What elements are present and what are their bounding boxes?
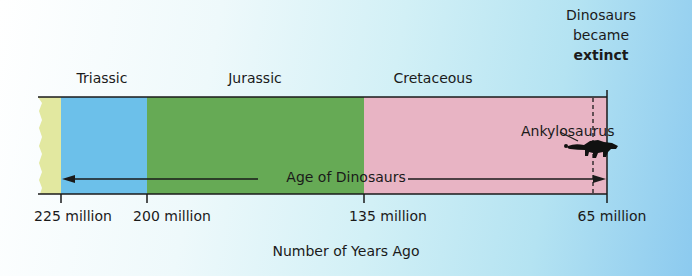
age-of-dinosaurs-label: Age of Dinosaurs	[286, 169, 405, 185]
period-label-jurassic: Jurassic	[228, 70, 282, 86]
tick-label-200: 200 million	[133, 208, 211, 224]
x-axis-title: Number of Years Ago	[272, 243, 419, 259]
tick-label-135: 135 million	[349, 208, 427, 224]
extinction-annotation: Dinosaurs became extinct	[553, 5, 649, 65]
ankylosaurus-label: Ankylosaurus	[521, 123, 614, 139]
extinction-line-3: extinct	[553, 45, 649, 65]
extinction-line-2: became	[553, 25, 649, 45]
pre-triassic-band	[38, 97, 61, 194]
period-label-triassic: Triassic	[77, 70, 128, 86]
extinction-line-1: Dinosaurs	[553, 5, 649, 25]
tick-label-65: 65 million	[578, 208, 647, 224]
period-label-cretaceous: Cretaceous	[394, 70, 473, 86]
tick-label-225: 225 million	[34, 208, 112, 224]
